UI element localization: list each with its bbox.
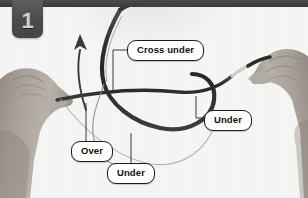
label-over: Over: [71, 141, 113, 162]
label-under-right: Under: [204, 110, 252, 131]
label-cross-under: Cross under: [127, 40, 204, 61]
label-under-bottom: Under: [107, 163, 155, 184]
top-rail: [0, 0, 308, 7]
leader-cross-under: [113, 50, 127, 90]
leader-under-right: [196, 96, 204, 118]
left-hand: [0, 68, 73, 198]
step-number-badge: 1: [12, 0, 43, 38]
right-hand: [248, 49, 308, 198]
motion-arrow: [74, 34, 87, 110]
illustration-panel: 1 Cross under Under Over Under: [0, 0, 308, 198]
step-number-text: 1: [12, 0, 43, 42]
